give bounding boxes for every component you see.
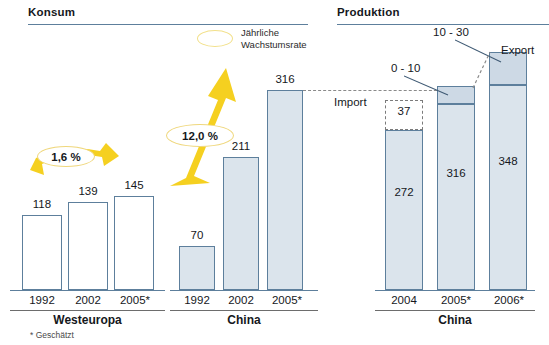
group-rule-westeuropa bbox=[10, 310, 165, 311]
tick-china-konsum-2005: 2005* bbox=[261, 294, 313, 306]
bar-china-konsum-2005 bbox=[267, 90, 303, 290]
bar-westeuropa-1992 bbox=[22, 215, 62, 290]
value-westeuropa-1992: 118 bbox=[22, 198, 62, 210]
axis-westeuropa bbox=[10, 290, 165, 291]
group-rule-produktion bbox=[375, 310, 535, 311]
tick-produktion-2004: 2004 bbox=[378, 294, 430, 306]
import-label: Import bbox=[334, 96, 367, 108]
group-rule-china-konsum bbox=[170, 310, 318, 311]
import-value-2004: 37 bbox=[385, 105, 423, 117]
growth-rate-westeuropa: 1,6 % bbox=[37, 146, 95, 167]
legend-label-line2: Wachstumsrate bbox=[241, 39, 307, 51]
value-westeuropa-2002: 139 bbox=[68, 185, 108, 197]
export-range-2006: 10 - 30 bbox=[433, 26, 469, 38]
bar-westeuropa-2002 bbox=[68, 202, 108, 290]
value-produktion-2006: 348 bbox=[489, 155, 527, 167]
section-title-konsum: Konsum bbox=[28, 6, 75, 18]
value-china-konsum-1992: 70 bbox=[179, 229, 215, 241]
tick-produktion-2006: 2006* bbox=[482, 294, 536, 306]
group-label-produktion: China bbox=[375, 313, 535, 327]
tick-westeuropa-1992: 1992 bbox=[16, 294, 68, 306]
value-produktion-2004: 272 bbox=[385, 186, 423, 198]
value-produktion-2005: 316 bbox=[437, 167, 475, 179]
export-range-2005: 0 - 10 bbox=[391, 62, 420, 74]
tick-china-konsum-1992: 1992 bbox=[172, 294, 222, 306]
tick-westeuropa-2002: 2002 bbox=[62, 294, 114, 306]
footnote-estimated: * Geschätzt bbox=[30, 330, 74, 340]
leader-line-2005-icon bbox=[404, 74, 456, 100]
growth-rate-oval-icon bbox=[197, 30, 233, 47]
bar-westeuropa-2005 bbox=[114, 196, 154, 290]
connector-dashed-export-trend-icon bbox=[470, 48, 530, 92]
bar-produktion-2004 bbox=[385, 130, 423, 290]
bar-china-konsum-1992 bbox=[179, 246, 215, 290]
legend: Jährliche Wachstumsrate bbox=[197, 27, 307, 50]
section-title-produktion: Produktion bbox=[337, 6, 400, 18]
tick-produktion-2005: 2005* bbox=[430, 294, 482, 306]
value-westeuropa-2005: 145 bbox=[114, 179, 154, 191]
produktion-header-rule bbox=[337, 24, 549, 25]
tick-westeuropa-2005: 2005* bbox=[108, 294, 162, 306]
bar-produktion-2005 bbox=[437, 104, 475, 290]
axis-china-konsum bbox=[170, 290, 318, 291]
tick-china-konsum-2002: 2002 bbox=[216, 294, 266, 306]
axis-produktion bbox=[375, 290, 535, 291]
growth-rate-china: 12,0 % bbox=[166, 124, 234, 147]
konsum-header-rule bbox=[28, 24, 308, 25]
legend-label-line1: Jährliche bbox=[241, 27, 307, 39]
group-label-westeuropa: Westeuropa bbox=[10, 313, 165, 327]
bar-produktion-2006 bbox=[489, 85, 527, 290]
group-label-china-konsum: China bbox=[170, 313, 318, 327]
value-china-konsum-2005: 316 bbox=[267, 73, 303, 85]
